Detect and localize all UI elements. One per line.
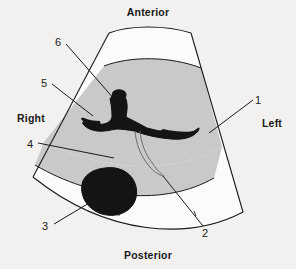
- orientation-label-posterior: Posterior: [124, 249, 172, 261]
- figure-container: Anterior Posterior Right Left 1 2 3 4 5 …: [0, 0, 296, 269]
- orientation-label-anterior: Anterior: [127, 6, 169, 18]
- callout-label-2: 2: [202, 227, 208, 239]
- tissue-band-region: [44, 59, 222, 166]
- vascular-superior-stalk: [112, 90, 126, 100]
- callout-label-3: 3: [42, 220, 48, 232]
- callout-label-6: 6: [55, 36, 61, 48]
- callout-label-1: 1: [255, 94, 261, 106]
- orientation-label-left: Left: [262, 117, 282, 129]
- callout-label-5: 5: [41, 77, 47, 89]
- callout-label-4: 4: [27, 138, 33, 150]
- orientation-label-right: Right: [17, 112, 45, 124]
